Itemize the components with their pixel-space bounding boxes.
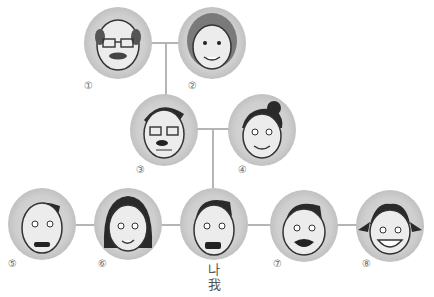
member-me [180,188,248,260]
member-3-father [130,94,198,166]
descent-line-gen2 [212,128,214,188]
member-5-older-brother [8,188,76,260]
member-1-grandfather [84,7,152,79]
grandfather-face-icon [84,7,152,79]
me-face-icon [180,188,248,260]
me-label-ko: 나 [199,262,229,277]
father-face-icon [130,94,198,166]
marker-1: ① [84,80,93,91]
marker-7: ⑦ [273,258,282,269]
member-7-younger-brother [270,190,338,262]
descent-line-gen1 [165,42,167,102]
grandmother-face-icon [178,7,246,79]
me-label: 나 我 [199,262,229,292]
younger-brother-face-icon [270,190,338,262]
older-brother-face-icon [8,188,76,260]
marker-5: ⑤ [8,258,17,269]
older-sister-face-icon [94,188,162,260]
younger-sister-face-icon [356,190,424,262]
couple-line-gen2 [196,128,232,130]
member-4-mother [228,94,296,166]
marker-2: ② [188,80,197,91]
member-8-younger-sister [356,190,424,262]
marker-8: ⑧ [362,258,371,269]
me-label-zh: 我 [199,277,229,292]
marker-6: ⑥ [98,258,107,269]
member-6-older-sister [94,188,162,260]
marker-3: ③ [136,164,145,175]
mother-face-icon [228,94,296,166]
marker-4: ④ [238,164,247,175]
member-2-grandmother [178,7,246,79]
